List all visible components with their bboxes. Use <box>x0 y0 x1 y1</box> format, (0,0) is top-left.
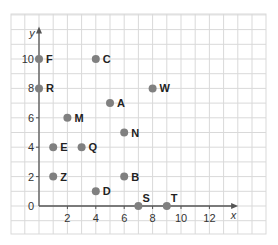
point-m: M <box>63 112 83 124</box>
point-marker-icon <box>63 114 71 122</box>
x-axis-label: x <box>230 209 237 221</box>
point-label: Z <box>60 171 67 183</box>
point-label: E <box>60 141 67 153</box>
x-tick-label: 10 <box>175 212 187 224</box>
point-marker-icon <box>120 129 128 137</box>
point-marker-icon <box>78 143 86 151</box>
axes: xy <box>28 27 238 221</box>
point-w: W <box>149 82 171 94</box>
point-label: A <box>117 97 125 109</box>
coordinate-plane: xy 246810120246810 FRCAWMNEQZBDST <box>0 0 278 245</box>
x-tick-label: 4 <box>93 212 99 224</box>
point-marker-icon <box>120 173 128 181</box>
point-marker-icon <box>35 84 43 92</box>
point-marker-icon <box>134 202 142 210</box>
point-label: C <box>103 53 111 65</box>
point-label: D <box>103 185 111 197</box>
x-tick-label: 8 <box>150 212 156 224</box>
x-tick-label: 6 <box>121 212 127 224</box>
x-tick-label: 12 <box>203 212 215 224</box>
point-t: T <box>163 192 178 210</box>
y-axis-label: y <box>28 27 36 39</box>
point-label: M <box>74 112 83 124</box>
point-marker-icon <box>49 143 57 151</box>
point-marker-icon <box>49 173 57 181</box>
point-marker-icon <box>106 99 114 107</box>
point-label: T <box>171 192 178 204</box>
tick-labels: 246810120246810 <box>22 53 216 224</box>
y-tick-label: 0 <box>28 200 34 212</box>
point-marker-icon <box>92 187 100 195</box>
point-marker-icon <box>92 55 100 63</box>
point-s: S <box>134 192 149 210</box>
y-tick-label: 2 <box>28 171 34 183</box>
point-label: Q <box>89 141 98 153</box>
point-label: F <box>46 53 53 65</box>
y-tick-label: 8 <box>28 82 34 94</box>
points: FRCAWMNEQZBDST <box>35 53 178 210</box>
point-marker-icon <box>163 202 171 210</box>
point-marker-icon <box>35 55 43 63</box>
point-label: R <box>46 82 54 94</box>
point-label: N <box>131 127 139 139</box>
point-label: S <box>142 192 149 204</box>
y-tick-label: 4 <box>28 141 34 153</box>
y-tick-label: 10 <box>22 53 34 65</box>
point-label: B <box>131 171 139 183</box>
point-label: W <box>160 82 171 94</box>
point-marker-icon <box>149 84 157 92</box>
y-tick-label: 6 <box>28 112 34 124</box>
x-tick-label: 2 <box>64 212 70 224</box>
grid <box>11 14 266 234</box>
